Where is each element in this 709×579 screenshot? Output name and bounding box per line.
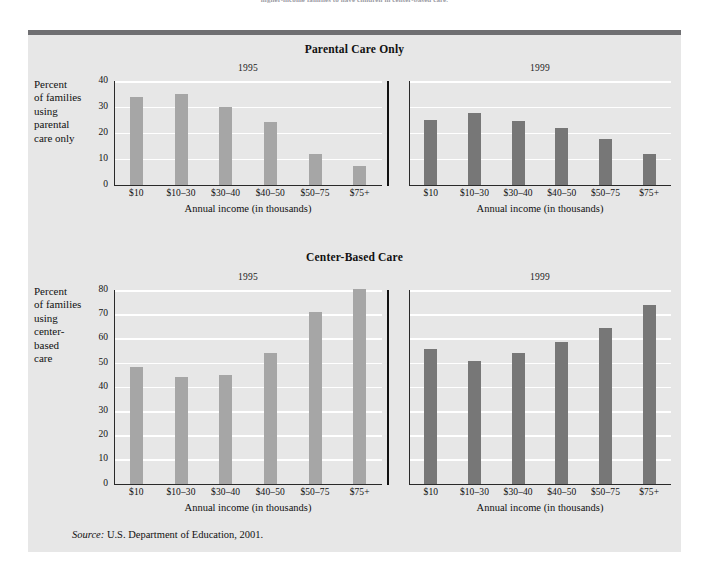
x-axis-title: Annual income (in thousands) xyxy=(114,203,382,214)
plot-area-parental-1999 xyxy=(409,81,671,186)
source-text: U.S. Department of Education, 2001. xyxy=(107,529,263,540)
y-axis-line xyxy=(409,81,410,186)
x-axis-line xyxy=(114,484,382,485)
x-category-label: $50–75 xyxy=(584,188,628,198)
gridline xyxy=(114,290,382,292)
y-tick-label: 40 xyxy=(88,381,108,391)
x-category-label: $50–75 xyxy=(584,487,628,497)
x-category-label: $75+ xyxy=(627,188,671,198)
x-category-label: $50–75 xyxy=(293,188,338,198)
bar xyxy=(130,97,143,185)
y-axis-line xyxy=(114,81,115,186)
x-category-label: $30–40 xyxy=(203,188,248,198)
bar xyxy=(512,121,525,184)
x-axis-line xyxy=(114,185,382,186)
y-axis-label-center: Percent of families using center- based … xyxy=(34,285,116,365)
bar xyxy=(555,128,568,185)
x-axis-line xyxy=(409,484,671,485)
x-category-label: $30–40 xyxy=(496,487,540,497)
gridline xyxy=(409,387,671,389)
x-category-label: $10–30 xyxy=(159,188,204,198)
bar xyxy=(468,361,481,483)
y-axis-line xyxy=(409,290,410,485)
gridline xyxy=(409,159,671,161)
chart-panel: Parental Care Only Center-Based Care Per… xyxy=(28,35,681,552)
gridline xyxy=(409,435,671,437)
x-category-label: $10 xyxy=(114,188,159,198)
bar xyxy=(512,353,525,484)
gridline xyxy=(409,290,671,292)
source-note: Source: U.S. Department of Education, 20… xyxy=(72,529,263,540)
bar xyxy=(353,166,366,184)
year-label-1999-parental: 1999 xyxy=(409,63,671,73)
x-axis-title: Annual income (in thousands) xyxy=(409,502,671,513)
x-category-label: $40–50 xyxy=(248,487,293,497)
gridline xyxy=(409,133,671,135)
bar xyxy=(130,367,143,483)
x-category-label: $10–30 xyxy=(159,487,204,497)
gridline xyxy=(114,363,382,365)
bar xyxy=(353,289,366,484)
x-category-label: $40–50 xyxy=(540,188,584,198)
section-title-parental-care: Parental Care Only xyxy=(28,43,681,55)
bar xyxy=(555,342,568,484)
y-tick-label: 0 xyxy=(88,179,108,189)
bar xyxy=(175,94,188,185)
year-label-1995-center: 1995 xyxy=(114,272,382,282)
gridline xyxy=(114,159,382,161)
x-category-label: $10 xyxy=(409,188,453,198)
y-tick-label: 20 xyxy=(88,127,108,137)
gridline xyxy=(114,81,382,83)
bar xyxy=(219,107,232,185)
bar xyxy=(599,328,612,484)
gridline xyxy=(409,107,671,109)
bar xyxy=(175,377,188,483)
gridline xyxy=(114,107,382,109)
y-tick-label: 80 xyxy=(88,284,108,294)
gridline xyxy=(114,435,382,437)
gridline xyxy=(114,411,382,413)
x-category-label: $30–40 xyxy=(496,188,540,198)
bar xyxy=(264,122,277,184)
gridline xyxy=(409,459,671,461)
x-category-label: $40–50 xyxy=(248,188,293,198)
top-caption: higher-income families to have children … xyxy=(0,0,709,4)
gridline xyxy=(114,387,382,389)
gridline xyxy=(114,314,382,316)
x-category-label: $75+ xyxy=(337,487,382,497)
section-title-center-based-care: Center-Based Care xyxy=(28,251,681,263)
gridline xyxy=(409,411,671,413)
bar xyxy=(424,120,437,185)
source-prefix: Source: xyxy=(72,529,104,540)
x-category-label: $40–50 xyxy=(540,487,584,497)
bar xyxy=(424,349,437,483)
gridline xyxy=(409,81,671,83)
panel-divider-center xyxy=(387,290,389,485)
x-axis-line xyxy=(409,185,671,186)
y-tick-label: 20 xyxy=(88,429,108,439)
bar xyxy=(309,312,322,484)
bar xyxy=(643,305,656,484)
gridline xyxy=(409,314,671,316)
x-axis-title: Annual income (in thousands) xyxy=(114,502,382,513)
plot-area-center-1999 xyxy=(409,290,671,485)
plot-area-center-1995 xyxy=(114,290,382,485)
figure-container: higher-income families to have children … xyxy=(0,0,709,579)
x-category-label: $10 xyxy=(409,487,453,497)
panel-divider-parental xyxy=(387,81,389,186)
y-tick-label: 40 xyxy=(88,75,108,85)
y-tick-label: 30 xyxy=(88,101,108,111)
x-axis-title: Annual income (in thousands) xyxy=(409,203,671,214)
y-tick-label: 60 xyxy=(88,332,108,342)
bar xyxy=(309,154,322,185)
bar xyxy=(643,154,656,185)
x-category-label: $75+ xyxy=(627,487,671,497)
bar xyxy=(599,139,612,184)
x-category-label: $10–30 xyxy=(453,487,497,497)
y-tick-label: 70 xyxy=(88,308,108,318)
y-axis-line xyxy=(114,290,115,485)
y-tick-label: 50 xyxy=(88,357,108,367)
x-category-label: $75+ xyxy=(337,188,382,198)
gridline xyxy=(114,133,382,135)
bar xyxy=(468,113,481,184)
